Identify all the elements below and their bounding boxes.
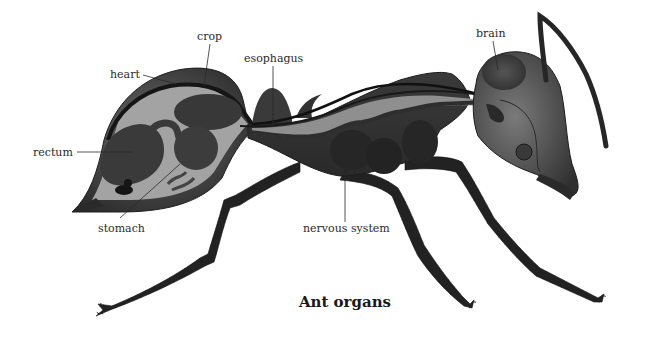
- gland-2: [124, 179, 132, 187]
- brain: [482, 54, 526, 90]
- leg-hair: [561, 284, 562, 288]
- leg-hair: [532, 261, 533, 265]
- leg-hair: [530, 267, 531, 271]
- label-stomach: stomach: [98, 222, 145, 235]
- coxa-2: [366, 138, 402, 174]
- label-crop: crop: [197, 30, 222, 43]
- leg-hair: [553, 280, 554, 284]
- mouth-organ: [516, 144, 532, 160]
- label-brain: brain: [476, 27, 505, 40]
- label-rectum: rectum: [33, 146, 73, 159]
- diagram-title: Ant organs: [298, 293, 391, 311]
- crop: [174, 94, 242, 130]
- leg-hair: [465, 300, 466, 304]
- leg-hair: [585, 295, 586, 299]
- gaster: [72, 68, 256, 212]
- ant-organs-diagram: crop heart esophagus brain rectum stomac…: [0, 0, 652, 351]
- leg-hair: [380, 178, 381, 182]
- leg-hair: [569, 287, 570, 291]
- label-heart: heart: [110, 68, 140, 81]
- leg-hair: [523, 261, 524, 265]
- leg-hair: [464, 303, 465, 307]
- label-esophagus: esophagus: [244, 52, 304, 65]
- stomach: [174, 126, 218, 170]
- label-nervous-system: nervous system: [303, 222, 390, 235]
- leg-hair: [451, 291, 452, 295]
- leg-hair: [538, 267, 539, 271]
- leg-hair: [472, 302, 476, 303]
- gland: [115, 185, 133, 195]
- leg-hair: [577, 291, 578, 295]
- leg-hair: [544, 276, 545, 280]
